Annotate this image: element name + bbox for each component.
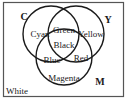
venn-diagram: CYMCyanGreenYellowBlackBlueRedMagentaWhi…	[0, 0, 127, 100]
region-label-yellow: Yellow	[78, 29, 104, 39]
region-label-green: Green	[53, 25, 75, 35]
set-label-c: C	[20, 11, 27, 22]
region-label-cyan: Cyan	[31, 29, 50, 39]
region-label-black: Black	[54, 40, 75, 50]
region-label-white: White	[6, 86, 28, 96]
set-label-y: Y	[104, 14, 112, 25]
set-label-m: M	[95, 76, 105, 87]
region-label-red: Red	[74, 53, 89, 63]
region-label-blue: Blue	[44, 55, 61, 65]
region-label-magenta: Magenta	[48, 73, 80, 83]
